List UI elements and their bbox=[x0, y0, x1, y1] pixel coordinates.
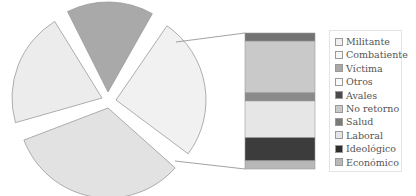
bar-segment bbox=[245, 41, 315, 93]
legend-swatch-icon bbox=[335, 38, 343, 46]
legend-label: Militante bbox=[346, 36, 390, 47]
legend-label: Combatiente bbox=[346, 49, 408, 60]
bar-segment bbox=[245, 138, 315, 161]
legend-swatch-icon bbox=[335, 158, 343, 166]
legend-swatch-icon bbox=[335, 145, 343, 153]
legend-item: Salud bbox=[335, 115, 373, 128]
legend-item: Avales bbox=[335, 89, 377, 102]
legend-item: Económico bbox=[335, 156, 399, 169]
legend-label: Otros bbox=[346, 76, 373, 87]
legend-swatch-icon bbox=[335, 51, 343, 59]
legend-item: Ideológico bbox=[335, 142, 396, 155]
bar-segment bbox=[245, 33, 315, 41]
connector-line bbox=[176, 33, 245, 42]
legend-label: Salud bbox=[346, 116, 373, 127]
legend-swatch-icon bbox=[335, 91, 343, 99]
legend-label: Laboral bbox=[346, 130, 383, 141]
legend-item: Combatiente bbox=[335, 48, 408, 61]
legend-item: Otros bbox=[335, 75, 373, 88]
legend: MilitanteCombatienteVíctimaOtrosAvalesNo… bbox=[329, 30, 402, 172]
legend-item: Militante bbox=[335, 35, 390, 48]
bar-segment bbox=[245, 93, 315, 101]
legend-item: Víctima bbox=[335, 62, 383, 75]
legend-item: Laboral bbox=[335, 129, 383, 142]
pie bbox=[12, 2, 206, 196]
legend-swatch-icon bbox=[335, 118, 343, 126]
legend-label: Ideológico bbox=[346, 143, 396, 154]
legend-label: No retorno bbox=[346, 103, 399, 114]
legend-label: Víctima bbox=[346, 63, 383, 74]
legend-swatch-icon bbox=[335, 78, 343, 86]
connector-line bbox=[175, 161, 245, 169]
legend-swatch-icon bbox=[335, 64, 343, 72]
legend-item: No retorno bbox=[335, 102, 399, 115]
legend-swatch-icon bbox=[335, 105, 343, 113]
legend-label: Avales bbox=[346, 90, 377, 101]
legend-label: Económico bbox=[346, 157, 399, 168]
bar-segment bbox=[245, 101, 315, 138]
bar-segment bbox=[245, 161, 315, 169]
legend-swatch-icon bbox=[335, 131, 343, 139]
stacked-bar bbox=[245, 33, 315, 169]
